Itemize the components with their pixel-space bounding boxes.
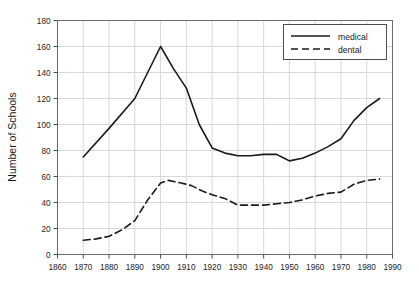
y-tick-label: 140 xyxy=(37,69,51,78)
chart-legend: medical dental xyxy=(284,25,387,60)
y-tick-label: 100 xyxy=(37,121,51,130)
y-tick-label: 180 xyxy=(37,17,51,26)
chart-figure: 020406080100120140160180 186018701880189… xyxy=(0,0,419,289)
y-tick-label: 20 xyxy=(41,225,51,234)
y-tick-label: 40 xyxy=(41,199,51,208)
x-tick-label: 1970 xyxy=(332,263,351,272)
x-tick-label: 1960 xyxy=(306,263,325,272)
y-tick-label: 60 xyxy=(41,173,51,182)
legend-label-dental: dental xyxy=(338,45,362,55)
legend-box xyxy=(284,25,387,60)
y-tick-label: 160 xyxy=(37,43,51,52)
x-tick-label: 1870 xyxy=(74,263,93,272)
x-tick-label: 1930 xyxy=(229,263,248,272)
x-tick-label: 1880 xyxy=(100,263,119,272)
x-tick-label: 1950 xyxy=(280,263,299,272)
legend-label-medical: medical xyxy=(338,32,368,42)
x-tick-label: 1980 xyxy=(358,263,377,272)
x-tick-label: 1920 xyxy=(203,263,222,272)
line-chart: 020406080100120140160180 186018701880189… xyxy=(0,0,419,289)
y-tick-label: 80 xyxy=(41,147,51,156)
y-axis-title: Number of Schools xyxy=(6,92,18,181)
x-tick-label: 1890 xyxy=(126,263,145,272)
x-tick-label: 1860 xyxy=(48,263,67,272)
x-tick-label: 1910 xyxy=(177,263,196,272)
y-tick-label: 0 xyxy=(46,251,51,260)
x-tick-label: 1900 xyxy=(151,263,170,272)
y-tick-label: 120 xyxy=(37,95,51,104)
x-tick-label: 1990 xyxy=(383,263,402,272)
x-tick-label: 1940 xyxy=(255,263,274,272)
